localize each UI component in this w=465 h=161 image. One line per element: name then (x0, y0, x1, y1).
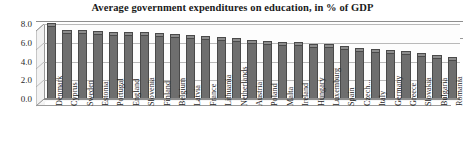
x-axis-tick-label: Slovakia (424, 77, 433, 106)
bar-top-face (109, 32, 118, 35)
bar-top-face (294, 42, 303, 45)
bar-top-face (263, 41, 272, 44)
x-axis: DenmarkCyprusSwedenEstoniaPortugalEnglan… (36, 106, 460, 161)
bar-top-face (155, 33, 164, 36)
x-axis-tick-label: Lithuania (224, 75, 233, 106)
bar-top-face (47, 23, 56, 26)
y-axis-tick-label: 2.0 (21, 76, 32, 85)
x-axis-tick-label: Spain (347, 87, 356, 106)
y-axis-tick-label: 8.0 (21, 20, 32, 29)
x-axis-tick-label: Portugal (116, 78, 125, 106)
bar-top-face (278, 42, 287, 45)
bar-top-face (124, 32, 133, 35)
x-axis-tick-label: Hungary (317, 77, 326, 106)
bar-top-face (62, 30, 71, 33)
bar-top-face (324, 44, 333, 47)
x-axis-tick-label: Austria (255, 82, 264, 106)
x-axis-tick-label: Malta (286, 87, 295, 106)
bar-top-face (78, 30, 87, 33)
bar-top-face (93, 31, 102, 34)
chart-title: Average government expenditures on educa… (0, 2, 465, 13)
x-axis-tick-label: Czech... (363, 79, 372, 106)
bar-top-face (201, 36, 210, 39)
y-axis-tick-label: 6.0 (21, 39, 32, 48)
bar-chart: Average government expenditures on educa… (0, 0, 465, 161)
x-axis-tick-label: Ireland (301, 83, 310, 106)
y-axis: 8.06.04.02.00.0 (2, 20, 32, 106)
x-axis-tick-label: Cyprus (70, 82, 79, 106)
x-axis-tick-label: Latvia (193, 85, 202, 106)
x-axis-tick-label: Italy (378, 91, 387, 106)
bar-top-face (217, 37, 226, 40)
x-axis-tick-label: Slovenia (147, 77, 156, 106)
x-axis-tick-label: Finland (163, 81, 172, 106)
x-axis-tick-label: Greece (409, 83, 418, 106)
x-axis-tick-label: Sweden (86, 80, 95, 106)
title-divider (36, 21, 463, 22)
bar-top-face (186, 35, 195, 38)
x-axis-tick-label: Bulgaria (440, 78, 449, 106)
x-axis-tick-label: England (132, 79, 141, 106)
x-axis-tick-label: Poland (270, 83, 279, 106)
x-axis-tick-label: Denmark (55, 76, 64, 106)
bar-top-face (386, 50, 395, 53)
bar-top-face (140, 32, 149, 35)
x-axis-tick-label: France (209, 84, 218, 106)
bar-top-face (432, 55, 441, 58)
x-axis-tick-label: Germany (394, 76, 403, 106)
x-axis-tick-label: Estonia (101, 81, 110, 106)
x-axis-tick-label: Netherlands (240, 66, 249, 106)
bar-top-face (401, 51, 410, 54)
bar-top-face (355, 48, 364, 51)
bar-top-face (371, 49, 380, 52)
bar-top-face (417, 53, 426, 56)
y-axis-tick-label: 4.0 (21, 58, 32, 67)
bar-top-face (309, 44, 318, 47)
x-axis-tick-label: Luxemburg (332, 68, 341, 106)
y-axis-tick-label: 0.0 (21, 95, 32, 104)
bar-top-face (340, 46, 349, 49)
x-axis-tick-label: Belgium (178, 78, 187, 106)
bar-top-face (170, 34, 179, 37)
bar-top-face (232, 38, 241, 41)
bar-top-face (247, 40, 256, 43)
x-axis-tick-label: Romania (455, 76, 464, 106)
bar-top-face (448, 57, 457, 60)
